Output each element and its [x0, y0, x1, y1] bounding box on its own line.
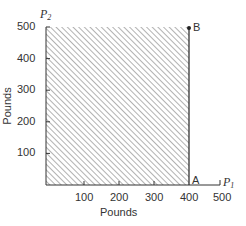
x-axis-name: P1 — [223, 175, 234, 190]
y-axis-title: Pounds — [1, 87, 13, 124]
y-tick-200: 200 — [17, 115, 35, 127]
y-tick-100: 100 — [17, 146, 35, 158]
point-b-label: B — [193, 21, 200, 33]
x-tick-200: 200 — [110, 191, 128, 203]
x-tick-300: 300 — [145, 191, 163, 203]
x-tick-100: 100 — [75, 191, 93, 203]
point-b-marker — [187, 26, 191, 30]
x-tick-400: 400 — [180, 191, 198, 203]
y-tick-400: 400 — [17, 52, 35, 64]
y-axis-name: P2 — [40, 7, 51, 22]
point-a-label: A — [192, 174, 199, 186]
x-tick-500: 500 — [213, 191, 231, 203]
y-tick-300: 300 — [17, 83, 35, 95]
x-axis-title: Pounds — [100, 206, 137, 218]
hatched-region — [46, 27, 189, 185]
y-tick-500: 500 — [17, 20, 35, 32]
